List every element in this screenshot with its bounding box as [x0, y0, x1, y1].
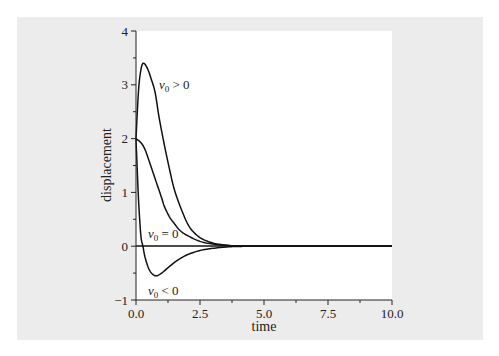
x-axis: 0.02.55.07.510.0: [128, 300, 404, 321]
y-tick-label: 4: [122, 24, 129, 39]
y-axis-title: displacement: [99, 128, 114, 202]
y-tick-label: 3: [122, 77, 129, 92]
x-tick-label: 7.5: [320, 306, 336, 321]
x-tick-label: 2.5: [192, 306, 208, 321]
label-v0-zero: v0 = 0: [148, 226, 179, 243]
x-tick-label: 10.0: [381, 306, 404, 321]
label-v0-positive: v0 > 0: [159, 77, 190, 94]
y-tick-label: −1: [114, 293, 128, 308]
y-axis: −101234: [114, 24, 136, 308]
x-axis-title: time: [252, 319, 277, 334]
label-v0-negative: v0 < 0: [148, 283, 179, 300]
y-tick-label: 2: [122, 131, 129, 146]
y-tick-label: 0: [122, 239, 129, 254]
chart: −101234 0.02.55.07.510.0 time displaceme…: [0, 0, 499, 356]
plot-area: [136, 31, 392, 300]
y-tick-label: 1: [122, 185, 129, 200]
x-tick-label: 0.0: [128, 306, 144, 321]
